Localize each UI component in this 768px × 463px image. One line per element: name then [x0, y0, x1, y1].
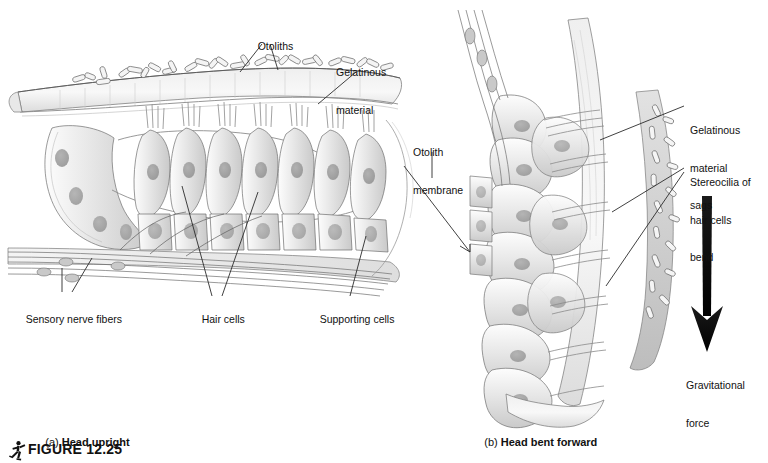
- label-gravitational-force: Gravitational force: [686, 354, 745, 454]
- panel-b-caption: (b) Head bent forward: [472, 424, 597, 460]
- label-otoliths: Otoliths: [246, 27, 293, 65]
- supporting-cells-row: [138, 214, 388, 252]
- label-otolith-membrane: Otolith membrane: [413, 121, 463, 221]
- label-sensory-nerve-fibers: Sensory nerve fibers: [14, 300, 122, 338]
- label-stereocilia-of-hair-cells-bend: Stereocilia of hair cells bend: [690, 151, 751, 289]
- label-hair-cells: Hair cells: [190, 300, 245, 338]
- running-figure-icon: [6, 440, 26, 462]
- hair-cells-row: [134, 128, 386, 220]
- figure-number: FIGURE 12.25: [28, 441, 122, 457]
- figure-canvas: Otoliths Gelatinous material Otolith mem…: [0, 0, 768, 463]
- panel-b-artwork: [458, 10, 680, 428]
- label-supporting-cells: Supporting cells: [308, 300, 394, 338]
- label-gelatinous-material: Gelatinous material: [336, 41, 386, 141]
